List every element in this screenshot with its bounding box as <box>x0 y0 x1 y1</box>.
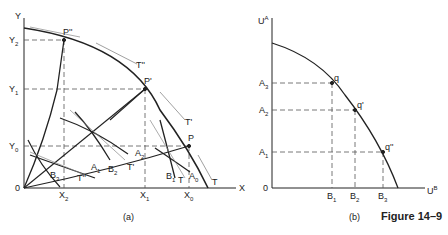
label-P1: P' <box>144 76 152 86</box>
utility-frontier-curve <box>272 43 398 188</box>
contract-curve-p0 <box>24 146 189 188</box>
label-T2-lower: T'' <box>77 173 86 183</box>
tick-A3: A3 <box>259 78 268 92</box>
x-axis-label: X <box>239 183 245 193</box>
tick-Y0-sub: 0 <box>15 147 18 153</box>
tick-X0-sub: 0 <box>190 196 193 202</box>
label-B3: B3 <box>50 170 59 184</box>
ua-axis-sup: A <box>265 15 269 21</box>
label-P2: P'' <box>63 27 72 37</box>
tick-A2-sub: 2 <box>265 111 268 117</box>
tick-Y2-sub: 2 <box>15 41 18 47</box>
tick-Y1-sub: 1 <box>15 90 18 96</box>
point-P2 <box>62 38 65 41</box>
line-p1-down <box>110 89 145 120</box>
tick-A2: A2 <box>259 105 268 119</box>
label-P0: P <box>188 133 194 143</box>
label-A3: A0 <box>189 171 198 185</box>
label-B1-sub: 1 <box>172 177 175 183</box>
label-B1: B1 <box>166 171 175 185</box>
tick-B2-sub: 2 <box>356 197 359 203</box>
tick-X1-sub: 1 <box>146 196 149 202</box>
tangent-T1-lower <box>70 110 125 160</box>
point-P1 <box>143 87 146 90</box>
tick-B3: B3 <box>378 191 387 205</box>
point-P0 <box>187 144 190 147</box>
label-B2-sub: 2 <box>114 170 117 176</box>
origin-label-b: 0 <box>263 183 268 193</box>
label-q: q <box>334 73 339 83</box>
tick-X2: X2 <box>59 190 68 204</box>
tick-A3-sub: 3 <box>265 84 268 90</box>
label-A1-sub: 1 <box>97 168 100 174</box>
tick-X2-sub: 2 <box>65 196 68 202</box>
tangent-T2-upper <box>30 27 80 37</box>
y-axis-label: Y <box>15 11 21 21</box>
caption-b: (b) <box>349 212 360 222</box>
label-B3-sub: 3 <box>56 176 59 182</box>
label-T2: T'' <box>136 60 145 70</box>
panel-b <box>272 18 425 188</box>
label-A2-sub: 2 <box>141 154 144 160</box>
tick-B1: B1 <box>327 191 336 205</box>
tick-B2: B2 <box>350 191 359 205</box>
contract-curve-p2 <box>24 40 64 188</box>
tangent-T0 <box>198 155 212 180</box>
label-A1: A1 <box>91 162 100 176</box>
tick-B1-sub: 1 <box>333 197 336 203</box>
label-T1: T' <box>185 117 192 127</box>
ua-axis-label: UA <box>258 13 269 26</box>
label-q1: q' <box>357 100 364 110</box>
label-T-lower: T <box>178 175 184 185</box>
tick-A1: A1 <box>259 147 268 161</box>
origin-label-a: 0 <box>15 183 20 193</box>
tick-Y2: Y2 <box>9 35 18 49</box>
label-B2: B2 <box>108 164 117 178</box>
caption-a: (a) <box>123 212 134 222</box>
label-q2: q'' <box>385 142 393 152</box>
label-T0: T <box>212 177 218 187</box>
tick-A1-sub: 1 <box>265 153 268 159</box>
dashed-guides <box>24 40 189 188</box>
tick-X1: X1 <box>140 190 149 204</box>
figure-title: Figure 14–9 <box>381 211 442 221</box>
ub-axis-label: UB <box>427 183 438 196</box>
label-A2: A2 <box>135 148 144 162</box>
tick-X0: X0 <box>184 190 193 204</box>
tick-Y0: Y0 <box>9 141 18 155</box>
dashed-guides-b <box>272 83 383 188</box>
tick-B3-sub: 3 <box>384 197 387 203</box>
label-A3-sub: 0 <box>195 177 198 183</box>
label-T1-lower: T' <box>127 162 134 172</box>
tick-Y1: Y1 <box>9 84 18 98</box>
ub-axis-sup: B <box>434 185 438 191</box>
